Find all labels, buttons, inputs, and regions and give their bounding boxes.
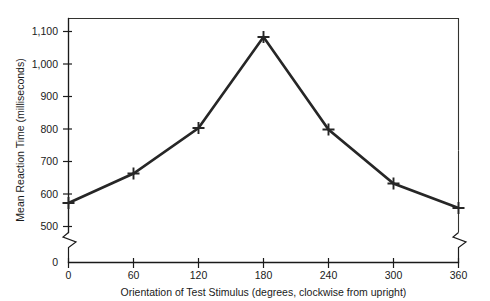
y-tick-label-900: 900 [40, 90, 58, 102]
y-tick-label-700: 700 [40, 155, 58, 167]
data-point-360 [453, 202, 465, 214]
x-axis-tick-labels: 0 60 120 180 240 300 360 [66, 269, 468, 281]
x-tick-label-180: 180 [255, 269, 273, 281]
y-axis-break-icon [63, 233, 76, 263]
y-tick-label-500: 500 [40, 220, 58, 232]
data-point-0 [63, 197, 75, 209]
y-tick-label-600: 600 [40, 188, 58, 200]
y-axis-tick-labels: 1,100 1,000 900 800 700 600 500 0 [32, 25, 58, 268]
x-axis-title: Orientation of Test Stimulus (degrees, c… [121, 286, 407, 298]
chart-canvas: 1,100 1,000 900 800 700 600 500 0 0 60 1… [0, 0, 490, 301]
data-series-line [69, 37, 459, 208]
chart-figure: 1,100 1,000 900 800 700 600 500 0 0 60 1… [0, 0, 490, 301]
right-axis-break-icon [453, 233, 466, 263]
x-tick-label-240: 240 [320, 269, 338, 281]
y-tick-label-1100: 1,100 [32, 25, 58, 37]
y-tick-label-0: 0 [52, 256, 58, 268]
y-tick-label-800: 800 [40, 123, 58, 135]
x-tick-label-300: 300 [385, 269, 403, 281]
x-tick-label-120: 120 [190, 269, 208, 281]
x-tick-label-0: 0 [66, 269, 72, 281]
y-axis-title: Mean Reaction Time (milliseconds) [14, 58, 26, 221]
y-tick-label-1000: 1,000 [32, 58, 58, 70]
x-tick-label-360: 360 [450, 269, 468, 281]
y-axis-ticks [63, 32, 72, 227]
x-tick-label-60: 60 [128, 269, 140, 281]
